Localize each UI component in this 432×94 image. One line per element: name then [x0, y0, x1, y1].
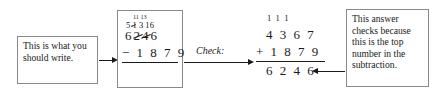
- arrow-shaft: [99, 60, 113, 61]
- addition-addend-second-row: + 1 8 7 9: [256, 44, 320, 60]
- arrow-work-to-addition: [184, 59, 256, 67]
- addition-carry-row: 1 1 1: [267, 13, 288, 23]
- addition-addend-first-row: 4 3 6 7: [266, 27, 316, 43]
- arrow-head-right-icon: [248, 59, 254, 65]
- arrow-shaft: [318, 71, 345, 72]
- arrow-shaft: [184, 62, 250, 63]
- arrow-note-left-to-work: [99, 57, 119, 65]
- struck-digit: 2: [134, 28, 143, 44]
- check-label: Check:: [196, 45, 224, 56]
- addition-sum-row: 6 2 4 6: [266, 63, 316, 79]
- callout-note-right-text: This answer checks because this is the t…: [352, 13, 411, 70]
- callout-note-left-text: This is what you should write.: [23, 40, 87, 63]
- addition-rule-line: [256, 61, 325, 62]
- arrow-note-right-to-sum: [312, 68, 346, 76]
- callout-note-right: This answer checks because this is the t…: [346, 9, 429, 87]
- struck-digit: 4: [142, 28, 151, 44]
- subtraction-check-diagram: This is what you should write. 11 13 5 1…: [0, 0, 432, 94]
- subtraction-minuend-row: 6246: [125, 28, 159, 44]
- subtraction-subtrahend-row: − 1 8 7 9: [122, 45, 186, 61]
- subtraction-regroup-top-row: 11 13: [133, 13, 147, 20]
- subtraction-rule-line: [122, 62, 178, 63]
- callout-note-left: This is what you should write.: [17, 36, 98, 84]
